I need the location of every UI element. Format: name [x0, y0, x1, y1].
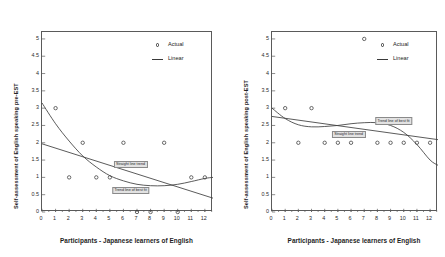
y-tick-label: 2.5	[32, 121, 40, 127]
y-tick-label: 2.5	[262, 121, 270, 127]
legend-label-actual: Actual	[168, 42, 184, 48]
x-tick-label: 9	[388, 215, 391, 221]
legend-entry-linear: Linear	[150, 54, 184, 64]
x-tick-label: 0	[270, 215, 273, 221]
x-tick-label: 9	[162, 215, 165, 221]
y-axis-label-post-est: Self-assessment of English speaking post…	[243, 80, 249, 209]
x-tick-label: 10	[400, 215, 406, 221]
x-tick-label: 12	[426, 215, 432, 221]
line-segment-icon	[375, 59, 390, 60]
x-tick-label: 2	[67, 215, 70, 221]
y-tick-label: 4.5	[32, 52, 40, 58]
x-tick-label: 11	[187, 215, 193, 221]
y-axis-label-pre-est: Self-assessment of English speaking pre-…	[13, 83, 19, 209]
line-segment-icon	[150, 59, 165, 60]
y-tick-label: 4.5	[262, 52, 270, 58]
x-axis-label-pre-est: Participants - Japanese learners of Engl…	[41, 237, 212, 244]
x-tick-label: 7	[135, 215, 138, 221]
x-tick-label: 7	[362, 215, 365, 221]
y-tick-label: 0.5	[262, 191, 270, 197]
plot-svg-post-est	[272, 32, 438, 212]
y-tick-label: 3	[266, 104, 269, 110]
y-tick-label: 2	[266, 139, 269, 145]
x-tick-label: 11	[413, 215, 419, 221]
y-tick-label: 3	[36, 104, 39, 110]
x-tick-label: 3	[80, 215, 83, 221]
x-tick-label: 12	[201, 215, 207, 221]
y-tick-label: 0	[36, 208, 39, 214]
x-tick-label: 6	[121, 215, 124, 221]
legend-label-linear: Linear	[168, 56, 184, 62]
legend-label-actual: Actual	[393, 42, 409, 48]
x-tick-label: 3	[309, 215, 312, 221]
y-tick-label: 1	[36, 173, 39, 179]
x-tick-label: 8	[148, 215, 151, 221]
y-tick-label: 0.5	[32, 191, 40, 197]
y-tick-label: 4	[36, 70, 39, 76]
y-tick-label: 1.5	[262, 156, 270, 162]
y-tick-label: 0	[266, 208, 269, 214]
plot-svg-pre-est	[42, 32, 213, 212]
x-tick-label: 5	[335, 215, 338, 221]
plot-area-pre-est	[41, 31, 212, 211]
x-tick-label: 4	[322, 215, 325, 221]
x-tick-label: 2	[296, 215, 299, 221]
y-tick-label: 1	[266, 173, 269, 179]
circle-marker-icon	[150, 43, 165, 47]
chart-panel-pre-est: Self-assessment of English speaking pre-…	[0, 0, 222, 257]
x-axis-label-post-est: Participants - Japanese learners of Engl…	[271, 237, 437, 244]
y-tick-label: 3.5	[32, 87, 40, 93]
x-tick-label: 6	[349, 215, 352, 221]
x-tick-labels-pre-est: 0123456789101112	[41, 215, 212, 225]
y-tick-labels-post-est: 00.511.522.533.544.55	[255, 31, 269, 211]
legend-entry-linear: Linear	[375, 54, 409, 64]
annotation-straight-line-trend-pre-est: Straight line trend	[114, 161, 148, 169]
x-tick-label: 1	[283, 215, 286, 221]
y-tick-label: 2	[36, 139, 39, 145]
annotation-straight-line-trend-post-est: Straight line trend	[332, 131, 366, 139]
legend-pre-est: Actual Linear	[150, 40, 184, 68]
y-tick-labels-pre-est: 00.511.522.533.544.55	[25, 31, 39, 211]
annotation-trend-line-of-best-fit-post-est: Trend line of best fit	[375, 117, 412, 125]
chart-panel-post-est: Self-assessment of English speaking post…	[223, 0, 445, 257]
y-tick-label: 1.5	[32, 156, 40, 162]
y-tick-label: 3.5	[262, 87, 270, 93]
y-tick-label: 4	[266, 70, 269, 76]
x-tick-label: 1	[53, 215, 56, 221]
x-tick-label: 10	[174, 215, 180, 221]
annotation-trend-line-of-best-fit-pre-est: Trend line of best fit	[112, 187, 149, 195]
circle-marker-icon	[375, 43, 390, 47]
x-tick-labels-post-est: 0123456789101112	[271, 215, 437, 225]
figure-canvas: Self-assessment of English speaking pre-…	[0, 0, 445, 257]
x-tick-label: 4	[94, 215, 97, 221]
legend-entry-actual: Actual	[375, 40, 409, 50]
y-tick-label: 5	[36, 35, 39, 41]
legend-label-linear: Linear	[393, 56, 409, 62]
y-tick-label: 5	[266, 35, 269, 41]
x-tick-label: 0	[40, 215, 43, 221]
x-tick-label: 5	[107, 215, 110, 221]
legend-entry-actual: Actual	[150, 40, 184, 50]
x-tick-label: 8	[375, 215, 378, 221]
legend-post-est: Actual Linear	[375, 40, 409, 68]
